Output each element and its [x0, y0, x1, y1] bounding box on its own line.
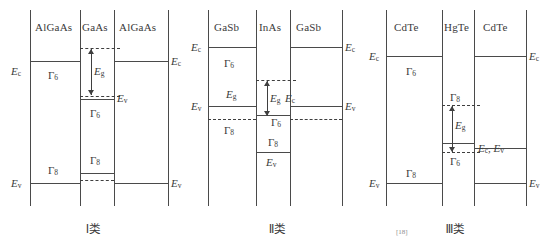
- energy-label-ev-well: Ev: [117, 93, 127, 105]
- material-label-left-barrier: CdTe: [394, 22, 418, 33]
- panel-3-caption: Ⅲ类: [364, 220, 546, 236]
- well-left-interface: [442, 10, 443, 206]
- well-conduction-band-edge: [80, 99, 114, 100]
- energy-label-ec-right: Ec: [529, 51, 539, 63]
- gamma-label-well-valence: Γ8: [268, 137, 278, 149]
- well-lower-dashed-level: [442, 152, 480, 153]
- energy-label-ev-right: Ev: [529, 178, 539, 190]
- panel-2-diagram: GaSb InAs GaSb Ec Ec Ev Ev Eg Eg Ec Ev Γ…: [186, 0, 368, 241]
- panel-2-caption: Ⅱ类: [186, 220, 368, 236]
- energy-label-ev-left: Ev: [11, 178, 21, 190]
- gamma-label-left-barrier-valence: Γ8: [48, 165, 58, 177]
- bandgap-arrow: [91, 49, 92, 95]
- outer-right-edge: [168, 10, 169, 206]
- footnote-reference-mark: [18]: [396, 228, 408, 236]
- well-conduction-dashed-top: [80, 48, 120, 49]
- energy-label-ev-right: Ev: [171, 178, 181, 190]
- well-valence-band-edge: [80, 173, 114, 174]
- material-label-well: GaAs: [82, 22, 108, 33]
- gamma-label-left-barrier-valence: Γ8: [406, 168, 416, 180]
- well-mid-band-edge: [442, 143, 474, 144]
- bandgap-arrow: [267, 81, 268, 116]
- material-label-well: InAs: [259, 22, 281, 33]
- outer-left-edge: [30, 10, 31, 206]
- energy-label-ev-right: Ev: [345, 101, 355, 113]
- energy-label-eg: Eg: [455, 120, 465, 132]
- well-right-interface: [290, 10, 291, 206]
- conduction-band-right-barrier: [474, 56, 526, 57]
- gamma-label-well-valence: Γ8: [90, 155, 100, 167]
- material-label-left-barrier: GaSb: [214, 22, 239, 33]
- outer-left-edge: [208, 10, 209, 206]
- outer-right-edge: [526, 10, 527, 206]
- material-label-right-barrier: AlGaAs: [119, 22, 156, 33]
- gamma-label-well-conduction: Γ6: [271, 117, 281, 129]
- well-left-interface: [256, 10, 257, 206]
- gamma-label-left-barrier-conduction: Γ6: [406, 66, 416, 78]
- energy-label-ev-well: Ev: [266, 157, 276, 169]
- material-label-left-barrier: AlGaAs: [35, 22, 72, 33]
- energy-label-ec-left: Ec: [11, 66, 21, 78]
- well-valence-band-edge: [256, 152, 290, 153]
- well-conduction-dashed-bottom: [80, 96, 120, 97]
- conduction-band-left-barrier: [30, 61, 80, 62]
- energy-label-ec-right: Ec: [171, 56, 181, 68]
- valence-band-right-barrier: [114, 183, 168, 184]
- gamma-label-left-barrier-valence: Γ8: [224, 125, 234, 137]
- panel-type-3: CdTe HgTe CdTe Ec Ec Ev Ev Ec, Ev Eg Γ6 …: [364, 0, 546, 241]
- material-label-well: HgTe: [444, 22, 469, 33]
- well-right-interface: [474, 10, 475, 206]
- valence-band-left-barrier: [30, 183, 80, 184]
- outer-right-edge: [342, 10, 343, 206]
- energy-label-ev-left: Ev: [191, 101, 201, 113]
- well-valence-dashed: [80, 180, 114, 181]
- energy-label-ec-ev-right: Ec, Ev: [478, 143, 504, 155]
- valence-band-right-barrier: [474, 183, 526, 184]
- valence-band-left-barrier: [208, 106, 256, 107]
- valence-band-right-barrier: [290, 106, 342, 107]
- energy-label-ec-well-edge: Ec: [285, 93, 295, 105]
- conduction-band-left-barrier: [386, 56, 442, 57]
- well-upper-dashed-level: [442, 105, 480, 106]
- energy-label-ec-left: Ec: [369, 51, 379, 63]
- energy-label-eg: Eg: [94, 66, 104, 78]
- valence-band-left-barrier: [386, 183, 442, 184]
- material-label-right-barrier: GaSb: [296, 22, 321, 33]
- gamma-label-left-barrier-conduction: Γ6: [48, 70, 58, 82]
- panel-1-caption: Ⅰ类: [2, 220, 184, 236]
- panel-type-1: AlGaAs GaAs AlGaAs Ec Ec Ev Ev Ev Eg Γ6 …: [2, 0, 184, 241]
- well-right-interface: [114, 10, 115, 206]
- panel-1-diagram: AlGaAs GaAs AlGaAs Ec Ec Ev Ev Ev Eg Γ6 …: [2, 0, 184, 241]
- energy-label-ec-left: Ec: [191, 42, 201, 54]
- energy-label-eg-barrier: Eg: [226, 89, 236, 101]
- material-label-right-barrier: CdTe: [483, 22, 507, 33]
- gamma-label-left-barrier-conduction: Γ6: [224, 58, 234, 70]
- outer-left-edge: [386, 10, 387, 206]
- gamma-label-well-top: Γ8: [450, 92, 460, 104]
- well-conduction-dashed-top: [256, 80, 296, 81]
- energy-label-eg-well: Eg: [270, 93, 280, 105]
- well-left-interface: [80, 10, 81, 206]
- energy-label-ev-left: Ev: [369, 178, 379, 190]
- gamma-label-well-bottom: Γ6: [450, 156, 460, 168]
- panel-type-2: GaSb InAs GaSb Ec Ec Ev Ev Eg Eg Ec Ev Γ…: [186, 0, 368, 241]
- conduction-band-right-barrier: [114, 61, 168, 62]
- gamma-label-well-conduction: Γ6: [90, 108, 100, 120]
- panel-3-diagram: CdTe HgTe CdTe Ec Ec Ev Ev Ec, Ev Eg Γ6 …: [364, 0, 546, 241]
- conduction-band-right-barrier: [290, 47, 342, 48]
- energy-label-ec-right: Ec: [345, 42, 355, 54]
- barrier-right-dashed-level: [290, 119, 342, 120]
- bandgap-arrow: [452, 106, 453, 152]
- barrier-left-dashed-level: [208, 119, 256, 120]
- conduction-band-left-barrier: [208, 47, 256, 48]
